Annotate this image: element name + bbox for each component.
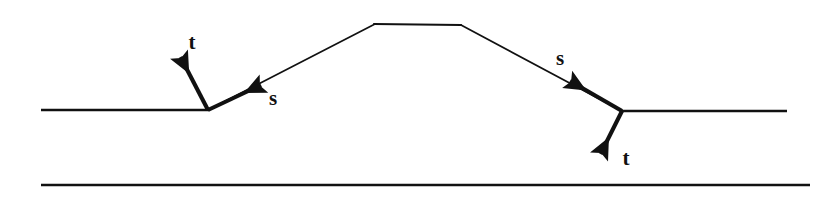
right-tangent-vector-arrow <box>570 81 622 111</box>
profile-diagram: t s s t <box>0 0 821 199</box>
right-normal-vector-arrow <box>601 111 623 154</box>
right-tangent-label: s <box>556 46 564 70</box>
diagram-canvas: t s s t <box>0 0 821 199</box>
left-tangent-vector-arrow <box>208 85 261 110</box>
left-tangent-label: s <box>269 86 277 110</box>
left-normal-vector-arrow <box>181 57 209 110</box>
right-normal-label: t <box>623 146 630 170</box>
left-normal-label: t <box>189 30 196 54</box>
upper-surface-plateau <box>374 24 461 25</box>
